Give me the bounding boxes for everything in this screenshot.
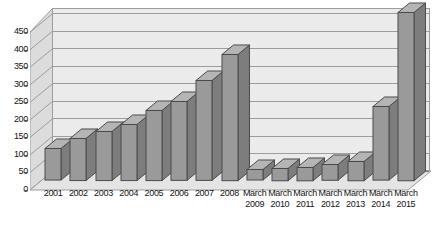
x-axis-tick-label: March2015	[390, 188, 422, 210]
y-axis-tick-mark	[24, 32, 28, 33]
y-axis-tick-mark	[24, 67, 28, 68]
y-axis: 450400350300250200150100500	[0, 0, 28, 231]
x-axis-tick-label-line1: 2002	[69, 188, 88, 198]
y-axis-tick-mark	[24, 85, 28, 86]
y-axis-tick-mark	[24, 190, 28, 191]
y-axis-tick-mark	[24, 102, 28, 103]
y-axis-tick-mark	[24, 120, 28, 121]
y-axis-tick-mark	[24, 50, 28, 51]
x-axis-tick-label-line1: 2005	[144, 188, 163, 198]
x-axis-tick-label-line1: 2007	[195, 188, 214, 198]
x-axis-tick-label-line1: 2006	[170, 188, 189, 198]
x-axis: 20012002200320042005200620072008March200…	[30, 188, 432, 228]
y-axis-tick-mark	[24, 172, 28, 173]
y-axis-tick-mark	[24, 155, 28, 156]
x-axis-tick-label-line1: 2003	[94, 188, 113, 198]
x-axis-tick-label-line1: March	[394, 188, 418, 198]
x-axis-tick-label-line1: 2004	[119, 188, 138, 198]
bar	[397, 1, 428, 183]
plot-area	[30, 8, 432, 188]
y-axis-tick-mark	[24, 137, 28, 138]
x-axis-tick-label-line1: 2008	[220, 188, 239, 198]
bars-layer	[30, 8, 432, 190]
bar-chart: 450400350300250200150100500 200120022003…	[0, 0, 439, 231]
x-axis-tick-label-line2: 2015	[390, 199, 422, 210]
x-axis-tick-label-line1: 2001	[44, 188, 63, 198]
